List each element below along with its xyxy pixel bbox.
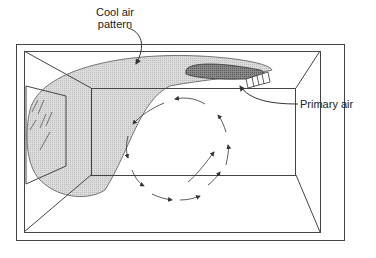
cool-air-label-line1: Cool air (96, 6, 134, 18)
cool-air-label: Cool air pattern (96, 6, 134, 30)
room-airflow-diagram (0, 0, 376, 258)
cool-air-label-line2: pattern (96, 18, 134, 30)
primary-air-label: Primary air (300, 98, 353, 110)
